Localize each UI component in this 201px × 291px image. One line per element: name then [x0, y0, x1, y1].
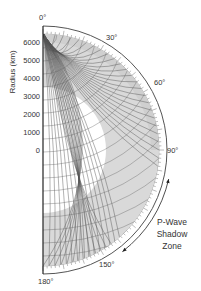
- tick-4000: 4000: [23, 74, 40, 83]
- axis-label-radius: Radius (km): [8, 50, 17, 93]
- tick-6000: 6000: [23, 38, 40, 47]
- tick-5000: 5000: [23, 56, 40, 65]
- tick-2000: 2000: [23, 110, 40, 119]
- tick-1000: 1000: [23, 128, 40, 137]
- shadow-zone-label: P-Wave Shadow Zone: [157, 217, 189, 251]
- tick-0: 0: [36, 146, 40, 155]
- annotation-line-2: Shadow: [157, 229, 189, 239]
- angle-150: 150°: [99, 260, 115, 269]
- annotation-line-1: P-Wave: [157, 217, 187, 227]
- angle-30: 30°: [106, 33, 117, 42]
- tick-3000: 3000: [23, 92, 40, 101]
- angle-90: 90°: [167, 146, 178, 155]
- angle-60: 60°: [154, 78, 165, 87]
- p-wave-shadow-zone-diagram: 6000 5000 4000 3000 2000 1000 0 Radius (…: [0, 0, 201, 291]
- angle-180: 180°: [38, 277, 54, 286]
- radius-tick-labels: 6000 5000 4000 3000 2000 1000 0: [23, 38, 40, 155]
- annotation-line-3: Zone: [162, 241, 182, 251]
- angle-0: 0°: [39, 13, 46, 22]
